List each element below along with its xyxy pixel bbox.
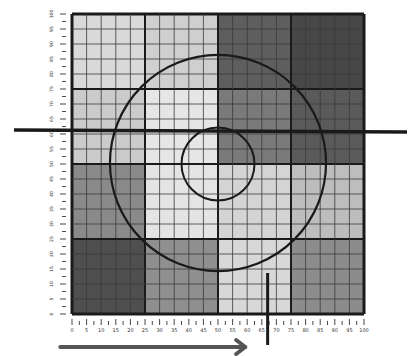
y-tick-label: 75 [49, 86, 54, 92]
x-tick-label: 25 [142, 327, 148, 333]
shaded-block [72, 14, 145, 89]
y-tick-label: 30 [49, 221, 54, 227]
x-tick-label: 20 [127, 327, 133, 333]
y-tick-label: 20 [49, 251, 54, 257]
shaded-block [218, 164, 291, 239]
y-tick-label: 100 [49, 10, 54, 19]
horizontal-line [14, 130, 407, 132]
y-tick-label: 95 [49, 26, 54, 32]
shaded-block [218, 89, 291, 164]
x-tick-label: 15 [113, 327, 119, 333]
shaded-block [145, 14, 218, 89]
arrow-icon [60, 340, 245, 354]
x-tick-label: 30 [156, 327, 162, 333]
x-tick-label: 50 [215, 327, 221, 333]
shaded-block [145, 89, 218, 164]
grid-diagram: 0510152025303540455055606570758085909510… [0, 0, 415, 356]
y-tick-label: 0 [49, 312, 54, 315]
y-tick-label: 15 [49, 266, 54, 272]
y-tick-label: 10 [49, 281, 54, 287]
y-tick-label: 40 [49, 191, 54, 197]
x-tick-label: 100 [359, 327, 369, 333]
x-tick-label: 5 [85, 327, 88, 333]
x-tick-label: 95 [346, 327, 352, 333]
x-axis: 0510152025303540455055606570758085909510… [70, 319, 368, 333]
shaded-block [291, 164, 364, 239]
grid-lines [72, 14, 364, 314]
shaded-block [72, 239, 145, 314]
y-tick-label: 90 [49, 41, 54, 47]
y-tick-label: 45 [49, 176, 54, 182]
x-tick-label: 40 [186, 327, 192, 333]
x-tick-label: 35 [171, 327, 177, 333]
shaded-block [291, 239, 364, 314]
y-tick-label: 50 [49, 161, 54, 167]
y-tick-label: 5 [49, 297, 54, 300]
x-tick-label: 90 [332, 327, 338, 333]
x-tick-label: 55 [229, 327, 235, 333]
y-axis: 0510152025303540455055606570758085909510… [49, 10, 66, 316]
shaded-block [72, 164, 145, 239]
x-tick-label: 65 [259, 327, 265, 333]
x-tick-label: 45 [200, 327, 206, 333]
x-tick-label: 80 [302, 327, 308, 333]
x-tick-label: 75 [288, 327, 294, 333]
y-tick-label: 70 [49, 101, 54, 107]
shaded-block [218, 14, 291, 89]
x-tick-label: 85 [317, 327, 323, 333]
shaded-block [291, 89, 364, 164]
y-tick-label: 35 [49, 206, 54, 212]
y-tick-label: 80 [49, 71, 54, 77]
x-tick-label: 60 [244, 327, 250, 333]
y-tick-label: 65 [49, 116, 54, 122]
shaded-block [145, 164, 218, 239]
shaded-block [72, 89, 145, 164]
x-tick-label: 70 [273, 327, 279, 333]
x-tick-label: 0 [70, 327, 73, 333]
shaded-block [291, 14, 364, 89]
y-tick-label: 25 [49, 236, 54, 242]
y-tick-label: 55 [49, 146, 54, 152]
y-tick-label: 85 [49, 56, 54, 62]
x-tick-label: 10 [98, 327, 104, 333]
